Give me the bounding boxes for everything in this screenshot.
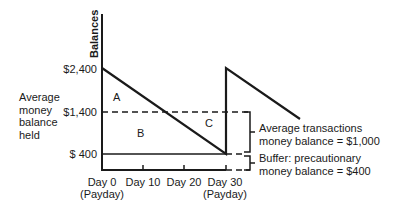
x-tick-line1: Day 30	[195, 176, 255, 188]
y-axis-title: Balances	[88, 10, 100, 58]
annotation-line: money balance = $1,000	[259, 135, 380, 148]
side-label-line: Average	[19, 91, 60, 104]
annotation-line: Average transactions	[259, 122, 380, 135]
annotation-line: Buffer: precautionary	[259, 152, 371, 165]
region-a-label: A	[113, 91, 120, 103]
x-tick-label-day30: Day 30 (Payday)	[195, 176, 255, 200]
side-label-line: held	[19, 129, 60, 142]
transactions-bracket	[244, 112, 250, 152]
buffer-annotation: Buffer: precautionary money balance = $4…	[259, 152, 371, 177]
y-tick-400: $ 400	[37, 148, 97, 160]
y-tick-2400: $2,400	[37, 63, 97, 75]
x-tick-line2: (Payday)	[72, 188, 132, 200]
transactions-annotation: Average transactions money balance = $1,…	[259, 122, 380, 147]
x-tick-line2: (Payday)	[195, 188, 255, 200]
annotation-line: money balance = $400	[259, 165, 371, 178]
buffer-bracket	[244, 156, 250, 170]
y-tick-1400: $1,400	[37, 106, 97, 118]
region-c-label: C	[205, 117, 213, 129]
region-b-label: B	[137, 127, 144, 139]
